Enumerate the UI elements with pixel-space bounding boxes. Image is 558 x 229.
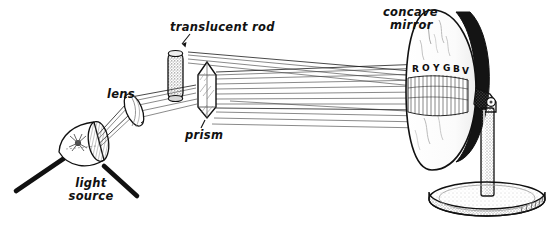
mirror-pivot-screw-center [490, 101, 493, 104]
light-source-label-line2: source [68, 189, 113, 203]
translucent-rod-bottom-cap [168, 96, 182, 102]
ray-bundle-prism-to-mirror [216, 64, 424, 110]
concave-mirror-label-line1: concave [383, 5, 438, 19]
translucent-rod-label: translucent rod [170, 20, 275, 34]
spectrum-letter-v: V [462, 66, 469, 76]
concave-mirror-label-line2: mirror [390, 18, 434, 32]
light-source-arm-left [16, 157, 66, 191]
prism-leader-line [201, 120, 205, 128]
spectrum-letter-b: B [453, 64, 460, 74]
translucent-rod-body [168, 52, 183, 100]
spectrum-letter-o: O [422, 63, 430, 73]
translucent-rod-top-cap [168, 51, 182, 57]
spectrum-letter-g: G [443, 63, 450, 73]
light-source-label-line1: light [75, 176, 107, 190]
optics-diagram: light source lens translucent rod prism [0, 0, 558, 229]
spectrum-letter-y: Y [432, 63, 440, 73]
ray-bundle-rod-to-mirror [188, 52, 424, 87]
prism-label: prism [184, 128, 223, 142]
translucent-rod [168, 51, 183, 102]
mirror-spectrum-band [408, 75, 468, 116]
lens-label: lens [107, 87, 135, 101]
spectrum-letter-r: R [412, 64, 419, 74]
prism [198, 62, 216, 118]
ray-bundle-mirror-return [212, 101, 424, 128]
